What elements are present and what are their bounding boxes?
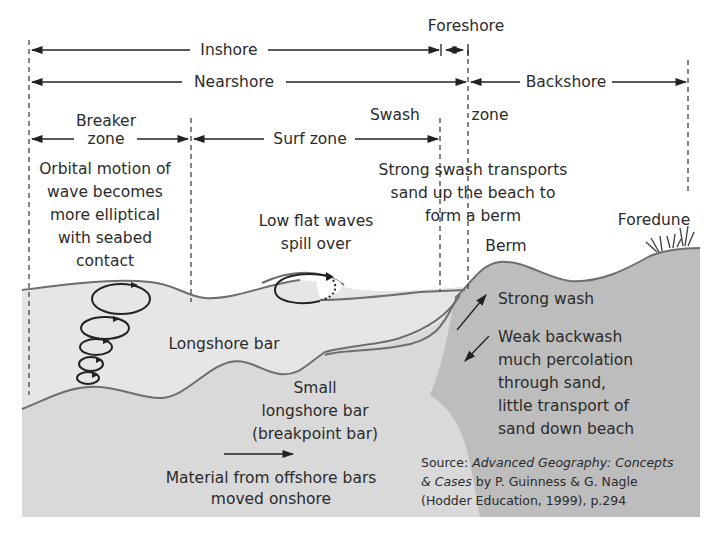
berm-label: Berm: [485, 237, 526, 255]
backwash-text-3: through sand,: [498, 374, 606, 392]
backwash-text-2: much percolation: [498, 351, 633, 369]
backwash-text-4: little transport of: [498, 397, 630, 415]
source-title-1: Advanced Geography: Concepts: [471, 455, 674, 470]
low-flat-waves-text-2: spill over: [281, 235, 352, 253]
orbital-text-1: Orbital motion of: [39, 160, 171, 178]
foreshore-label: Foreshore: [428, 17, 504, 35]
backwash-text-1: Weak backwash: [498, 328, 622, 346]
orbital-text-3: more elliptical: [50, 206, 160, 224]
beach-profile-diagram: Inshore Foreshore Nearshore Backshore Br…: [0, 0, 717, 534]
foredune-label: Foredune: [618, 211, 690, 229]
source-line-3: (Hodder Education, 1999), p.294: [421, 493, 626, 508]
strong-wash-label: Strong wash: [498, 290, 594, 308]
source-line-2: & Cases by P. Guinness & G. Nagle: [421, 474, 638, 489]
low-flat-waves-text-1: Low flat waves: [259, 212, 374, 230]
backwash-text-5: sand down beach: [498, 420, 634, 438]
material-text-2: moved onshore: [211, 490, 331, 508]
strong-swash-text-3: form a berm: [425, 207, 521, 225]
small-bar-text-2: longshore bar: [261, 402, 369, 420]
inshore-label: Inshore: [200, 41, 257, 59]
surf-zone-label: Surf zone: [273, 130, 346, 148]
nearshore-label: Nearshore: [194, 73, 274, 91]
small-bar-text-3: (breakpoint bar): [252, 425, 378, 443]
orbital-text-2: wave becomes: [47, 183, 163, 201]
longshore-bar-label: Longshore bar: [168, 335, 280, 353]
material-text-1: Material from offshore bars: [166, 469, 377, 487]
source-prefix: Source:: [421, 455, 472, 470]
swash-zone-label: zone: [472, 106, 509, 124]
strong-swash-text-1: Strong swash transports: [379, 161, 568, 179]
orbital-text-4: with seabed: [58, 229, 152, 247]
orbital-text-5: contact: [76, 252, 134, 270]
small-bar-text-1: Small: [293, 379, 336, 397]
strong-swash-text-2: sand up the beach to: [391, 184, 556, 202]
breaker-zone-label-2: zone: [88, 130, 125, 148]
source-title-2: & Cases: [421, 474, 472, 489]
swash-label: Swash: [370, 106, 420, 124]
backshore-label: Backshore: [526, 73, 607, 91]
breaker-zone-label-1: Breaker: [76, 112, 137, 130]
source-line-1: Source: Advanced Geography: Concepts: [421, 455, 674, 470]
source-authors: by P. Guinness & G. Nagle: [472, 474, 638, 489]
